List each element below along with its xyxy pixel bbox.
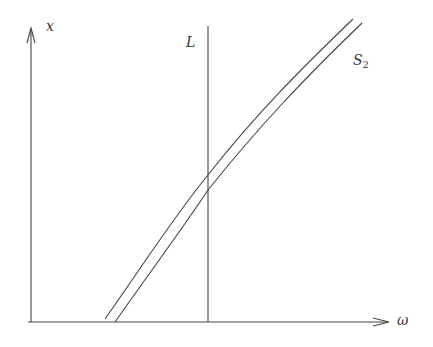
curve-s2-label: S2 [353, 52, 369, 70]
curve-label-base: S [353, 52, 363, 68]
curve-s2-left [105, 19, 353, 319]
curve-s2-right [115, 23, 362, 322]
x-axis-label: ω [397, 312, 408, 328]
line-L-label: L [186, 34, 195, 50]
curve-label-subscript: 2 [363, 59, 369, 70]
y-axis-label: x [46, 18, 54, 34]
